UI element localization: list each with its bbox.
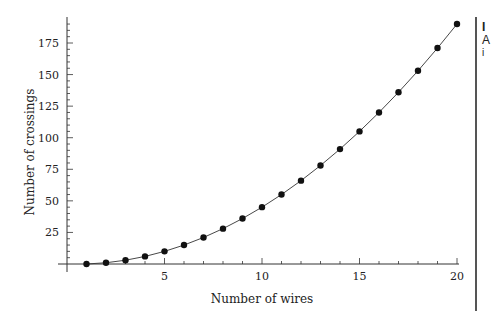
data-point [220, 225, 226, 231]
axes: 2550751001251501755101520 [38, 17, 464, 283]
data-point [356, 128, 362, 134]
data-point [259, 204, 265, 210]
sidebar-fragment: A [482, 33, 490, 47]
data-point [434, 45, 440, 51]
crossings-chart: 2550751001251501755101520 Number of wire… [0, 0, 491, 311]
y-tick-label: 150 [38, 69, 59, 82]
y-tick-label: 25 [45, 226, 59, 239]
data-point [142, 253, 148, 259]
y-tick-label: 175 [38, 37, 59, 50]
data-point [103, 260, 109, 266]
y-tick-label: 50 [45, 195, 59, 208]
y-tick-label: 100 [38, 132, 59, 145]
y-tick-label: 125 [38, 100, 59, 113]
data-point [181, 242, 187, 248]
data-point [278, 191, 284, 197]
x-tick-label: 20 [450, 270, 464, 283]
x-axis-label: Number of wires [211, 292, 314, 306]
data-point [317, 162, 323, 168]
data-point [161, 248, 167, 254]
x-tick-label: 10 [255, 270, 269, 283]
data-point [337, 146, 343, 152]
data-point [395, 89, 401, 95]
y-axis-label: Number of crossings [23, 89, 37, 216]
data-point [122, 257, 128, 263]
data-points [83, 21, 460, 267]
sidebar-fragment: I [482, 20, 485, 34]
data-point [239, 215, 245, 221]
sidebar-fragment: i [482, 47, 484, 58]
data-point [298, 177, 304, 183]
data-point [376, 109, 382, 115]
x-tick-label: 15 [353, 270, 367, 283]
x-tick-label: 5 [161, 270, 168, 283]
panel-divider [475, 17, 477, 311]
data-point [200, 234, 206, 240]
data-point [83, 261, 89, 267]
y-tick-label: 75 [45, 163, 59, 176]
data-point [415, 68, 421, 74]
data-point [454, 21, 460, 27]
data-line [87, 24, 458, 264]
